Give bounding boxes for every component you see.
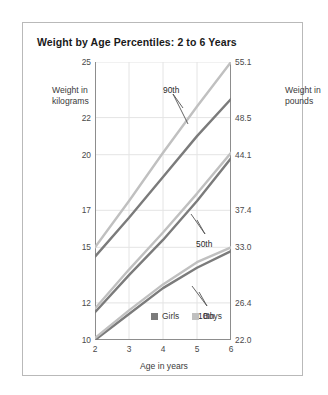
legend-swatch-girls bbox=[151, 313, 158, 320]
annotation-90th: 90th bbox=[163, 85, 179, 95]
legend-item-boys[interactable]: Boys bbox=[192, 311, 222, 321]
y-tick-kg-17: 17 bbox=[71, 205, 91, 215]
y-tick-kg-15: 15 bbox=[71, 242, 91, 252]
y-tick-kg-22: 22 bbox=[71, 113, 91, 123]
y-tick-kg-20: 20 bbox=[71, 150, 91, 160]
plot-area bbox=[95, 62, 231, 340]
x-axis-title: Age in years bbox=[0, 361, 328, 371]
legend-item-girls[interactable]: Girls bbox=[151, 311, 179, 321]
chart-svg bbox=[95, 62, 231, 340]
legend-label-girls: Girls bbox=[162, 311, 179, 321]
legend-swatch-boys bbox=[192, 313, 199, 320]
x-tick-2: 2 bbox=[85, 344, 105, 354]
y-tick-kg-12: 12 bbox=[71, 298, 91, 308]
annotation-50th: 50th bbox=[196, 239, 212, 249]
x-tick-3: 3 bbox=[119, 344, 139, 354]
x-tick-4: 4 bbox=[153, 344, 173, 354]
y-tick-lb-48.5: 48.5 bbox=[235, 113, 251, 123]
y-tick-kg-25: 25 bbox=[71, 57, 91, 67]
y-tick-lb-44.1: 44.1 bbox=[235, 150, 251, 160]
page-title: Weight by Age Percentiles: 2 to 6 Years bbox=[37, 36, 237, 48]
y-axis-right-title: Weight in pounds bbox=[285, 85, 328, 107]
y-tick-lb-26.4: 26.4 bbox=[235, 298, 251, 308]
legend-label-boys: Boys bbox=[203, 311, 222, 321]
x-tick-6: 6 bbox=[221, 344, 241, 354]
legend: Girls Boys bbox=[151, 311, 222, 321]
x-tick-5: 5 bbox=[187, 344, 207, 354]
y-tick-lb-55.1: 55.1 bbox=[235, 57, 251, 67]
y-tick-lb-33.0: 33.0 bbox=[235, 242, 251, 252]
gridlines bbox=[95, 62, 231, 340]
y-tick-lb-37.4: 37.4 bbox=[235, 205, 251, 215]
